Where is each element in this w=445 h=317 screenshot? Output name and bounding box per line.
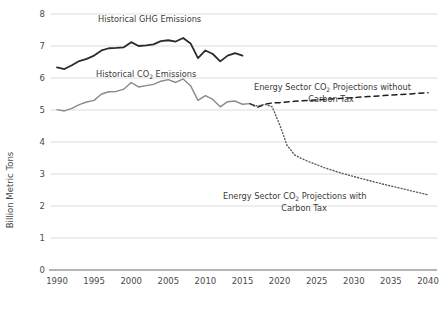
chart-container: 012345678 199019952000200520102015202020… xyxy=(0,0,445,317)
x-tick-label: 2015 xyxy=(232,276,254,286)
x-tick-label: 1995 xyxy=(83,276,105,286)
annotation-projection-with-tax-line1: Energy Sector CO2 Projections with xyxy=(223,191,367,202)
x-tick-label: 2030 xyxy=(343,276,365,286)
y-tick-label: 4 xyxy=(40,137,45,147)
x-tick-label: 2010 xyxy=(195,276,217,286)
x-axis-tick-labels: 1990199520002005201020152020202520302035… xyxy=(46,276,439,286)
x-tick-label: 2000 xyxy=(120,276,142,286)
y-axis-tick-labels: 012345678 xyxy=(40,9,45,275)
x-tick-label: 2020 xyxy=(269,276,291,286)
emissions-line-chart: 012345678 199019952000200520102015202020… xyxy=(0,0,445,317)
series-line xyxy=(250,104,428,195)
y-tick-label: 0 xyxy=(40,265,45,275)
x-tick-label: 2025 xyxy=(306,276,328,286)
series-line xyxy=(57,79,250,111)
annotation-historical-ghg: Historical GHG Emissions xyxy=(98,14,201,24)
annotation-projection-without-tax-line1: Energy Sector CO2 Projections without xyxy=(254,82,412,93)
y-tick-label: 8 xyxy=(40,9,45,19)
y-tick-label: 5 xyxy=(40,105,45,115)
series-layer xyxy=(57,38,428,195)
x-tick-label: 2035 xyxy=(380,276,402,286)
annotation-historical-co2: Historical CO2 Emissions xyxy=(96,69,196,80)
y-tick-label: 6 xyxy=(40,73,45,83)
series-line xyxy=(57,38,243,69)
annotation-projection-without-tax-line2: Carbon Tax xyxy=(308,94,354,104)
x-tick-label: 2005 xyxy=(157,276,179,286)
y-axis-title: Billion Metric Tons xyxy=(5,151,15,228)
y-tick-label: 1 xyxy=(40,233,45,243)
y-tick-label: 3 xyxy=(40,169,45,179)
y-tick-label: 7 xyxy=(40,41,45,51)
x-tick-label: 2040 xyxy=(417,276,439,286)
annotation-projection-with-tax-line2: Carbon Tax xyxy=(281,203,327,213)
x-tick-label: 1990 xyxy=(46,276,68,286)
y-tick-label: 2 xyxy=(40,201,45,211)
